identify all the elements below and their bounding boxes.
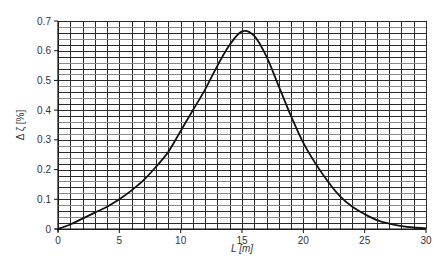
- y-axis-ticks: 00.10.20.30.40.50.60.7: [37, 16, 58, 235]
- y-tick-label: 0.2: [37, 164, 51, 175]
- axes: [55, 21, 426, 232]
- y-tick-label: 0: [45, 224, 51, 235]
- x-tick-label: 10: [175, 235, 187, 246]
- y-tick-label: 0.7: [37, 16, 51, 27]
- grid-lines: [58, 21, 427, 230]
- x-tick-label: 30: [420, 235, 432, 246]
- chart: 051015202530 00.10.20.30.40.50.60.7 L [m…: [0, 0, 448, 271]
- y-axis-label-text: Δ ζ [%]: [15, 110, 27, 141]
- y-tick-label: 0.4: [37, 105, 51, 116]
- x-tick-label: 20: [298, 235, 310, 246]
- x-axis-label: L [m]: [231, 243, 253, 254]
- y-axis-label: Δ ζ [%]: [15, 110, 27, 141]
- x-tick-label: 0: [55, 235, 61, 246]
- y-tick-label: 0.6: [37, 45, 51, 56]
- x-axis-label-text: L [m]: [231, 243, 253, 254]
- x-tick-label: 5: [117, 235, 123, 246]
- y-tick-label: 0.3: [37, 134, 51, 145]
- x-tick-label: 25: [359, 235, 371, 246]
- y-tick-label: 0.5: [37, 75, 51, 86]
- y-tick-label: 0.1: [37, 194, 51, 205]
